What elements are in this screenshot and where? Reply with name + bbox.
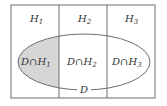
partition-diagram: H1 H2 H3 D∩H1 D∩H2 D∩H3 D: [0, 0, 167, 106]
event-label-d: D: [79, 84, 88, 95]
intersection-label-d-h2: D∩H2: [66, 56, 97, 69]
partition-label-h3: H3: [124, 13, 139, 26]
intersection-label-d-h3: D∩H3: [111, 56, 142, 69]
partition-label-h2: H2: [77, 13, 92, 26]
partition-label-h1: H1: [29, 13, 43, 26]
